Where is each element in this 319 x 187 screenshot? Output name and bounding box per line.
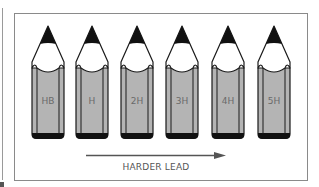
pencil: 4H	[212, 26, 244, 139]
pencil-grade-label: 3H	[176, 96, 189, 106]
pencil-grade-label: 5H	[268, 96, 281, 106]
pencil-lead	[40, 26, 56, 44]
arrow-head	[214, 152, 226, 159]
harder-arrow	[86, 152, 226, 159]
pencil-lead	[220, 26, 236, 44]
pencil: 2H	[121, 26, 153, 139]
pencil-grade-label: 2H	[131, 96, 144, 106]
pencil-grade-label: 4H	[222, 96, 235, 106]
pencil-grade-label: HB	[42, 96, 55, 106]
pencil-lead	[84, 26, 100, 44]
pencil: HB	[32, 26, 64, 139]
pencil-lead	[174, 26, 190, 44]
pencil-grade-label: H	[89, 96, 96, 106]
pencil: H	[76, 26, 108, 139]
pencil-lead	[129, 26, 145, 44]
pencil-lead	[266, 26, 282, 44]
pencil-grade-diagram: HBH2H3H4H5H HARDER LEAD	[0, 0, 319, 187]
arrow-label: HARDER LEAD	[123, 162, 190, 172]
pencil: 3H	[166, 26, 198, 139]
pencil: 5H	[258, 26, 290, 139]
pencil-group: HBH2H3H4H5H	[32, 26, 290, 139]
